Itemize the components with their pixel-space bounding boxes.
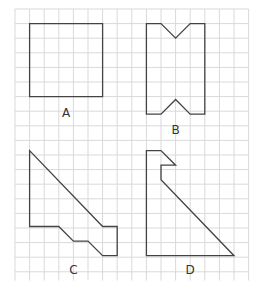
shape-label-b: B xyxy=(171,123,179,137)
shapes-grid-figure: ABCD xyxy=(0,0,259,290)
grid-lines xyxy=(15,9,249,281)
shape-label-d: D xyxy=(186,263,195,277)
shape-a xyxy=(30,24,103,97)
shape-label-c: C xyxy=(69,263,77,277)
shape-label-a: A xyxy=(62,106,71,120)
